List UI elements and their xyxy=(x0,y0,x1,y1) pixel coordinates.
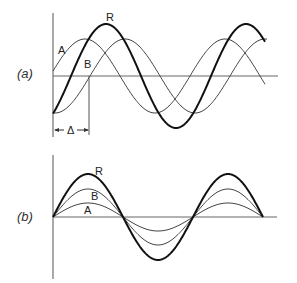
panel-a-label-R: R xyxy=(106,11,114,23)
panel-a-title: (a) xyxy=(17,66,33,81)
panel-b-label-R: R xyxy=(95,165,103,177)
panel-a: Δ A B R (a) xyxy=(17,11,278,137)
delta-arrowhead-left xyxy=(54,128,59,132)
panel-b-title: (b) xyxy=(17,209,33,224)
panel-b: R B A (b) xyxy=(17,155,277,279)
panel-a-label-A: A xyxy=(58,44,66,56)
delta-arrowhead-right xyxy=(84,128,89,132)
delta-label: Δ xyxy=(67,124,75,136)
panel-b-label-A: A xyxy=(84,204,92,216)
wave-superposition-figure: Δ A B R (a) R B A (b) xyxy=(0,0,297,283)
panel-b-label-B: B xyxy=(91,190,98,202)
panel-a-label-B: B xyxy=(84,58,91,70)
